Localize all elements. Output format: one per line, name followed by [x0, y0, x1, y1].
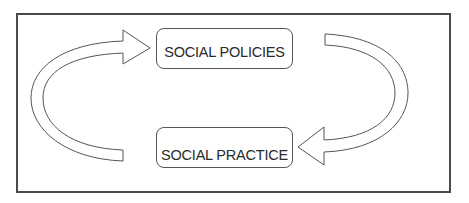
node-social-practice: SOCIAL PRACTICE: [156, 127, 293, 168]
node-social-policies-label: SOCIAL POLICIES: [164, 44, 285, 60]
node-social-practice-label: SOCIAL PRACTICE: [161, 147, 288, 163]
node-social-policies: SOCIAL POLICIES: [156, 28, 293, 69]
arrow-practice-to-policies-icon: [31, 30, 150, 161]
arrow-policies-to-practice-icon: [298, 34, 408, 165]
